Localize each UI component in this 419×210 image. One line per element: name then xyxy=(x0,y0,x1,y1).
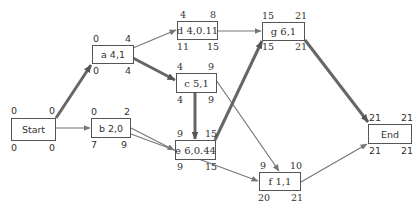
node-c-es: 4 xyxy=(177,62,183,72)
node-a-ls: 0 xyxy=(93,66,99,76)
node-d: d 4,0.11 xyxy=(177,21,218,40)
node-end-es: 21 xyxy=(369,113,381,123)
node-start-label: Start xyxy=(22,124,45,135)
node-c-ef: 9 xyxy=(208,62,214,72)
node-end: End xyxy=(368,124,412,144)
node-g-lf: 21 xyxy=(295,42,307,52)
node-e-label: e 6,0.44 xyxy=(175,145,216,156)
node-d-ef: 8 xyxy=(210,10,216,20)
node-g-es: 15 xyxy=(262,11,274,21)
node-b-es: 0 xyxy=(91,107,97,117)
node-d-lf: 15 xyxy=(207,42,219,52)
node-c-ls: 4 xyxy=(177,95,183,105)
node-start-ef: 0 xyxy=(49,106,55,116)
edge-g-end xyxy=(305,40,368,122)
node-a-label: a 4,1 xyxy=(101,49,125,60)
node-e-es: 9 xyxy=(177,129,183,139)
node-b-label: b 2,0 xyxy=(99,123,123,134)
node-f-label: f 1,1 xyxy=(269,176,292,187)
node-e: e 6,0.44 xyxy=(175,140,216,160)
node-d-label: d 4,0.11 xyxy=(177,25,218,36)
node-b-lf: 9 xyxy=(121,140,127,150)
edge-e-g xyxy=(215,41,262,140)
node-e-ls: 9 xyxy=(177,162,183,172)
node-g-ef: 21 xyxy=(295,11,307,21)
node-start-lf: 0 xyxy=(49,143,55,153)
node-e-lf: 15 xyxy=(205,162,217,172)
node-c-lf: 9 xyxy=(208,95,214,105)
node-e-ef: 15 xyxy=(205,129,217,139)
node-start-es: 0 xyxy=(11,106,17,116)
node-f: f 1,1 xyxy=(259,172,301,191)
node-d-es: 4 xyxy=(180,10,186,20)
node-a-ef: 4 xyxy=(125,34,131,44)
node-b-ef: 2 xyxy=(124,107,130,117)
node-a: a 4,1 xyxy=(92,45,134,64)
edge-start-a xyxy=(56,65,91,118)
node-f-lf: 21 xyxy=(291,193,303,203)
node-g-label: g 6,1 xyxy=(271,26,296,37)
node-start-ls: 0 xyxy=(11,143,17,153)
edge-b-e xyxy=(131,128,174,150)
node-a-lf: 4 xyxy=(125,66,131,76)
edge-c-f xyxy=(216,80,279,171)
node-c: c 5,1 xyxy=(176,73,217,93)
edge-a-d xyxy=(133,30,176,48)
node-f-ls: 20 xyxy=(258,193,270,203)
node-b-ls: 7 xyxy=(91,140,97,150)
node-f-ef: 10 xyxy=(290,161,302,171)
node-end-ls: 21 xyxy=(369,146,381,156)
node-b: b 2,0 xyxy=(91,118,131,138)
node-end-lf: 21 xyxy=(401,146,413,156)
node-d-ls: 11 xyxy=(177,42,189,52)
node-g: g 6,1 xyxy=(262,22,305,41)
node-end-label: End xyxy=(381,129,399,140)
node-end-ef: 21 xyxy=(401,113,413,123)
edge-f-end xyxy=(301,144,367,182)
edge-a-c xyxy=(133,58,175,80)
node-a-es: 0 xyxy=(93,34,99,44)
node-start: Start xyxy=(11,118,56,141)
node-f-es: 9 xyxy=(260,161,266,171)
node-c-label: c 5,1 xyxy=(184,78,209,89)
node-g-ls: 15 xyxy=(262,42,274,52)
